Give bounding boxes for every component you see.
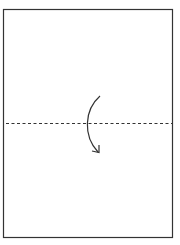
folding-diagram [0,0,180,245]
